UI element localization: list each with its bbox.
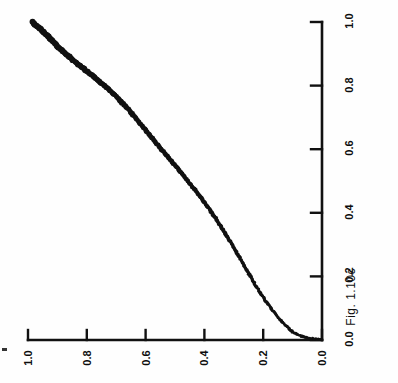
figure-page: 0.00.20.40.60.81.0 0.00.20.40.60.81.0 Fi… <box>0 0 398 383</box>
axis-ticks <box>28 22 322 340</box>
figure-caption: Fig. 1.10c <box>344 268 358 326</box>
x-ticklabel: 1.0 <box>343 8 355 34</box>
y-ticklabel: 0.4 <box>198 345 210 371</box>
y-ticklabel: 0.0 <box>316 345 328 371</box>
x-ticklabel: 0.6 <box>343 135 355 161</box>
x-ticklabel: 0.4 <box>343 199 355 225</box>
x-ticklabel: 0.8 <box>343 72 355 98</box>
data-series <box>30 19 324 341</box>
x-ticklabel: 0.0 <box>343 326 355 352</box>
axis-lines <box>28 22 322 340</box>
page-edge-mark <box>2 348 7 351</box>
y-ticklabel: 0.8 <box>81 345 93 371</box>
rotated-figure: 0.00.20.40.60.81.0 0.00.20.40.60.81.0 Fi… <box>0 0 398 383</box>
y-ticklabel: 0.6 <box>140 345 152 371</box>
y-ticklabel: 0.2 <box>257 345 269 371</box>
y-ticklabel: 1.0 <box>22 345 34 371</box>
plot-canvas <box>0 0 398 383</box>
data-point <box>30 19 36 25</box>
